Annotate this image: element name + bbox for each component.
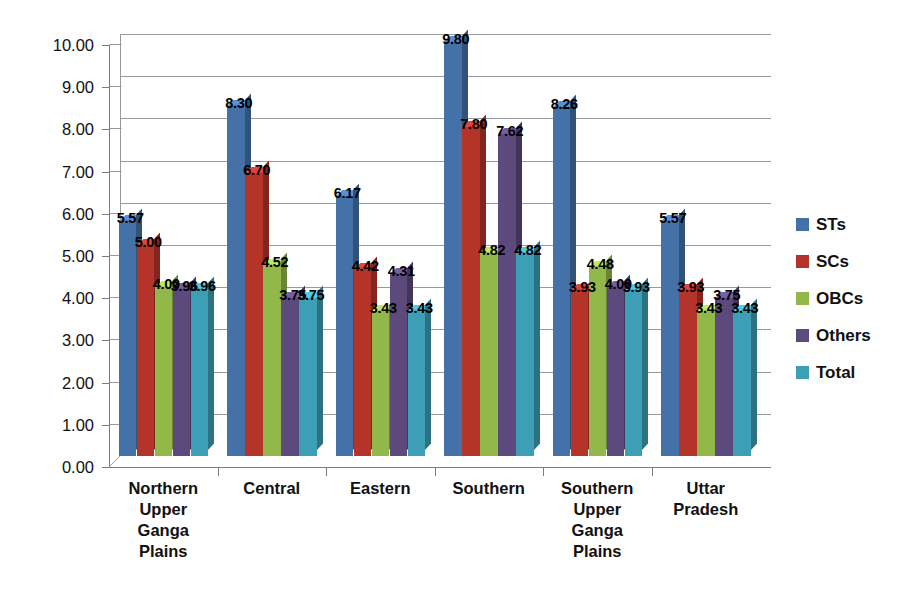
bar-front-face [191,289,209,456]
legend-item[interactable]: Total [796,354,896,391]
chart-legend: STsSCsOBCsOthersTotal [796,206,896,391]
bar[interactable] [498,134,516,456]
bar[interactable] [444,42,462,456]
bar-data-label: 3.93 [623,279,650,295]
bar-data-label: 5.57 [117,210,144,226]
legend-item[interactable]: OBCs [796,280,896,317]
bar-data-label: 4.82 [514,242,541,258]
y-axis-tick-label: 6.00 [28,204,94,223]
bar[interactable] [281,298,299,456]
x-axis-line [109,467,771,468]
plot-area: 5.575.004.003.963.968.306.704.523.753.75… [109,34,771,467]
bar[interactable] [516,253,534,456]
legend-item-label: Total [816,363,855,383]
bar[interactable] [571,290,589,456]
bar-data-label: 3.93 [677,279,704,295]
bar-data-label: 4.82 [478,242,505,258]
bar-side-face [751,299,757,450]
bar-front-face [553,107,571,456]
y-axis-tick-label: 8.00 [28,120,94,139]
bar-front-face [372,311,390,456]
legend-color-swatch-icon [796,218,809,231]
bar[interactable] [227,106,245,456]
bar-front-face [480,253,498,456]
legend-item-label: STs [816,215,846,235]
bar[interactable] [589,267,607,456]
bar[interactable] [553,107,571,456]
y-axis-tick-mark [102,467,110,468]
bar-front-face [516,253,534,456]
legend-item[interactable]: SCs [796,243,896,280]
bar[interactable] [679,290,697,456]
bar[interactable] [480,253,498,456]
bar-data-label: 6.17 [334,185,361,201]
chart-canvas: Kg/capita/month 0.001.002.003.004.005.00… [0,0,901,611]
bar[interactable] [661,221,679,456]
x-axis-category-label-line: Plains [534,541,661,562]
x-axis-category-label-line: Upper [100,499,227,520]
bar-front-face [155,287,173,456]
x-axis-category-label-line: Pradesh [643,499,770,520]
x-axis-category-label: UttarPradesh [643,478,770,520]
bar[interactable] [372,311,390,456]
bar-front-face [263,265,281,456]
bar[interactable] [607,287,625,456]
bar-data-label: 7.62 [496,123,523,139]
bar[interactable] [299,298,317,456]
bar-data-label: 5.00 [135,234,162,250]
legend-color-swatch-icon [796,292,809,305]
x-axis-category-label-line: Ganga [100,520,227,541]
bar-front-face [227,106,245,456]
x-axis-category-labels: NorthernUpperGangaPlainsCentralEasternSo… [109,478,771,603]
bar[interactable] [715,298,733,456]
bar-data-label: 3.75 [297,287,324,303]
x-axis-category-label-line: Ganga [534,520,661,541]
y-axis-tick-label: 3.00 [28,331,94,350]
bar-data-label: 8.30 [225,95,252,111]
bar-front-face [408,311,426,456]
bar-front-face [733,311,751,456]
bar-data-label: 8.26 [551,96,578,112]
bar[interactable] [191,289,209,456]
bar-series-container [109,34,771,467]
bar-data-label: 3.43 [370,300,397,316]
bar-data-label: 9.80 [442,31,469,47]
x-axis-category-label-line: Plains [100,541,227,562]
bar-front-face [354,269,372,456]
bar[interactable] [173,289,191,456]
legend-item[interactable]: STs [796,206,896,243]
bar[interactable] [137,245,155,456]
bar-data-label: 7.80 [460,116,487,132]
bar[interactable] [336,196,354,456]
bar[interactable] [408,311,426,456]
bar[interactable] [263,265,281,456]
legend-item-label: OBCs [816,289,863,309]
bar-side-face [317,285,323,450]
bar-data-label: 4.31 [388,263,415,279]
bar-front-face [281,298,299,456]
bar-front-face [571,290,589,456]
bar[interactable] [625,290,643,456]
bar-data-label: 4.52 [261,254,288,270]
bar[interactable] [733,311,751,456]
bar-front-face [245,173,263,456]
bar[interactable] [155,287,173,456]
bar-front-face [715,298,733,456]
bar[interactable] [245,173,263,456]
bar-front-face [173,289,191,456]
bar-side-face [642,278,648,450]
bar-front-face [607,287,625,456]
y-axis-tick-label: 4.00 [28,289,94,308]
bar[interactable] [697,311,715,456]
bar[interactable] [462,127,480,456]
x-axis-tick-mark [652,467,653,476]
legend-item[interactable]: Others [796,317,896,354]
y-axis-tick-label: 2.00 [28,373,94,392]
bar-data-label: 4.42 [352,258,379,274]
bar[interactable] [354,269,372,456]
bar-front-face [299,298,317,456]
legend-color-swatch-icon [796,366,809,379]
y-axis-tick-label: 10.00 [28,36,94,55]
bar-front-face [661,221,679,456]
bar[interactable] [119,221,137,456]
